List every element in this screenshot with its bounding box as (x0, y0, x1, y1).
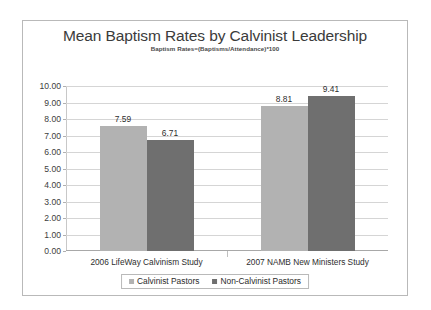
y-axis-tick-mark (63, 152, 66, 153)
y-axis-tick-mark (63, 251, 66, 252)
legend-label: Calvinist Pastors (137, 277, 199, 285)
bar-value-label: 9.41 (323, 84, 339, 94)
y-axis-tick-mark (63, 185, 66, 186)
bar-value-label: 6.71 (162, 128, 178, 138)
y-axis-tick-mark (63, 103, 66, 104)
y-axis-tick-mark (63, 169, 66, 170)
y-axis-tick-mark (63, 86, 66, 87)
y-axis-tick-label: 1.00 (44, 230, 61, 240)
y-axis-tick-label: 9.00 (44, 98, 61, 108)
x-axis-category-label: 2006 LifeWay Calvinism Study (90, 257, 202, 267)
y-axis-tick-mark (63, 136, 66, 137)
bar (147, 140, 194, 251)
legend-item[interactable]: Non-Calvinist Pastors (212, 277, 301, 285)
y-axis-tick-label: 7.00 (44, 131, 61, 141)
y-axis-tick-label: 0.00 (44, 246, 61, 256)
chart-legend: Calvinist PastorsNon-Calvinist Pastors (121, 274, 309, 289)
legend-label: Non-Calvinist Pastors (220, 277, 301, 285)
x-axis-group-divider (227, 251, 228, 257)
y-axis-tick-mark (63, 119, 66, 120)
chart-subtitle: Baptism Rates=(Baptisms/Attendance)*100 (23, 45, 407, 52)
chart-title: Mean Baptism Rates by Calvinist Leadersh… (23, 27, 407, 45)
y-axis-tick-label: 6.00 (44, 147, 61, 157)
y-axis-tick-mark (63, 218, 66, 219)
y-axis-tick-mark (63, 235, 66, 236)
y-axis-tick-label: 3.00 (44, 197, 61, 207)
bar (100, 126, 147, 251)
chart-frame: Mean Baptism Rates by Calvinist Leadersh… (22, 20, 408, 296)
y-axis-tick-mark (63, 202, 66, 203)
legend-item[interactable]: Calvinist Pastors (129, 277, 199, 285)
legend-swatch-icon (129, 279, 134, 284)
y-axis-tick-label: 4.00 (44, 180, 61, 190)
x-axis-category-label: 2007 NAMB New Ministers Study (246, 257, 369, 267)
gridline (66, 86, 388, 87)
bar-value-label: 8.81 (276, 94, 292, 104)
y-axis-tick-label: 2.00 (44, 213, 61, 223)
bar-value-label: 7.59 (115, 114, 131, 124)
bar (308, 96, 355, 251)
y-axis-tick-label: 8.00 (44, 114, 61, 124)
y-axis-tick-label: 5.00 (44, 164, 61, 174)
legend-swatch-icon (212, 279, 217, 284)
bar (261, 106, 308, 251)
y-axis-tick-label: 10.00 (39, 81, 61, 91)
plot-area: 0.001.002.003.004.005.006.007.008.009.00… (66, 86, 388, 251)
